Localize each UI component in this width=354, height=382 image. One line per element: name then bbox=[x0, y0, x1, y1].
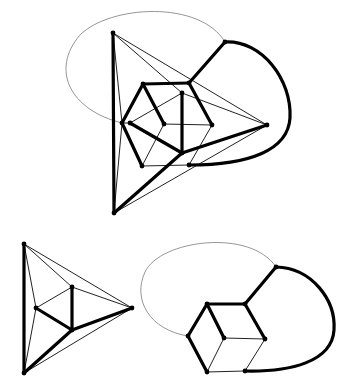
graph-node-ib bbox=[180, 151, 185, 156]
graph-node-hl bbox=[120, 121, 125, 126]
graph-node-c bbox=[162, 122, 167, 127]
graph-node-c bbox=[222, 336, 227, 341]
graph-node-il bbox=[128, 121, 133, 126]
graph-node-br bbox=[243, 369, 248, 374]
edge-thin bbox=[207, 371, 245, 372]
graph-top bbox=[66, 11, 290, 215]
graph-node-bl bbox=[112, 211, 117, 216]
edge-thick bbox=[114, 153, 182, 213]
edge-thin bbox=[113, 33, 267, 125]
graph-node-l bbox=[186, 334, 191, 339]
graph-node-it bbox=[180, 91, 185, 96]
graph-node-htr bbox=[187, 81, 192, 86]
edge-thin bbox=[207, 338, 224, 372]
graph-node-hr bbox=[210, 123, 215, 128]
graph-node-ib bbox=[70, 328, 75, 333]
graph-node-it bbox=[70, 285, 75, 290]
edge-thick bbox=[189, 83, 212, 125]
edge-thin bbox=[24, 308, 132, 373]
edge-thick bbox=[188, 336, 207, 372]
graph-node-bl bbox=[205, 370, 210, 375]
graph-node-b bbox=[22, 371, 27, 376]
graph-node-htl bbox=[141, 82, 146, 87]
edge-thin bbox=[36, 287, 72, 308]
graph-bottom-right bbox=[141, 242, 334, 374]
graph-node-r bbox=[263, 337, 268, 342]
edge-thick bbox=[207, 304, 224, 338]
edge-thick bbox=[143, 83, 189, 84]
graph-node-br bbox=[187, 163, 192, 168]
edge-thin bbox=[182, 93, 267, 125]
edge-thick bbox=[143, 84, 164, 124]
edge-thin bbox=[114, 125, 267, 213]
graph-node-a bbox=[274, 265, 279, 270]
edge-thick bbox=[113, 33, 114, 213]
curved-edge-thick bbox=[245, 267, 334, 371]
graph-node-tr bbox=[243, 302, 248, 307]
edge-thick bbox=[188, 304, 207, 336]
edge-thick bbox=[245, 267, 276, 304]
graph-node-tl bbox=[205, 302, 210, 307]
graph-node-t bbox=[22, 242, 27, 247]
graph-node-hbl bbox=[140, 164, 145, 169]
graph-node-r bbox=[130, 306, 135, 311]
edge-thin bbox=[24, 244, 132, 308]
edge-thick bbox=[36, 308, 72, 330]
edge-thick bbox=[72, 308, 132, 330]
edge-thin bbox=[164, 124, 212, 125]
edge-thick bbox=[189, 42, 225, 83]
graph-figure bbox=[0, 0, 354, 382]
edge-thin bbox=[245, 339, 265, 371]
graph-bottom-left bbox=[22, 242, 135, 376]
edge-thick bbox=[182, 125, 267, 153]
edge-thick bbox=[245, 304, 265, 339]
edge-thick bbox=[130, 123, 182, 153]
graph-node-a bbox=[223, 40, 228, 45]
graph-node-tl bbox=[111, 31, 116, 36]
graph-node-r bbox=[265, 123, 270, 128]
edge-thin bbox=[224, 338, 265, 339]
graph-node-il bbox=[34, 306, 39, 311]
